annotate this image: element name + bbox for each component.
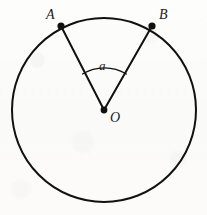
- circle-angle-figure: A B O a: [0, 0, 207, 215]
- point-a-label: A: [46, 8, 55, 22]
- point-b-label: B: [159, 8, 168, 22]
- point-b-dot: [148, 22, 155, 29]
- center-point-dot: [101, 107, 108, 114]
- center-label: O: [110, 111, 120, 125]
- point-a-dot: [57, 22, 64, 29]
- angle-label: a: [99, 59, 106, 72]
- geometry-drawing: [0, 0, 207, 215]
